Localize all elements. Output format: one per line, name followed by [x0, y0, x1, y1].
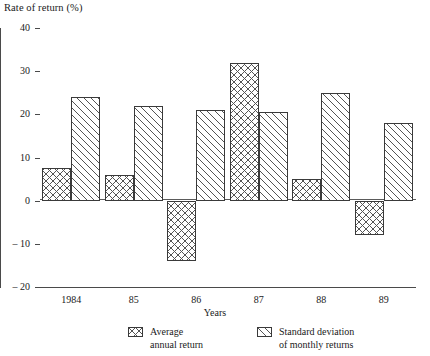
- x-axis-tick-label: 85: [104, 295, 164, 305]
- y-axis-tick-label: – 10: [0, 239, 30, 249]
- y-axis-tick-label: 20: [0, 109, 30, 119]
- y-axis-tick: [35, 287, 40, 288]
- chart-legend: Average annual return Standard deviation…: [0, 327, 430, 356]
- legend-swatch-average-icon: [128, 327, 143, 337]
- chart-title: Rate of return (%): [4, 2, 82, 13]
- x-axis-tick-label: 89: [354, 295, 414, 305]
- bar-88-average: [292, 179, 321, 201]
- x-axis-tick-label: 1984: [41, 295, 101, 305]
- y-axis-tick-label: 0: [0, 196, 30, 206]
- legend-label-stddev: Standard deviation of monthly returns: [279, 326, 354, 351]
- y-axis-tick-label: 10: [0, 153, 30, 163]
- bar-1984-stddev: [71, 97, 100, 201]
- x-axis-tick-label: 87: [229, 295, 289, 305]
- bar-86-stddev: [196, 110, 225, 201]
- bar-89-average: [355, 201, 384, 236]
- bar-1984-average: [42, 168, 71, 200]
- bar-86-average: [167, 201, 196, 261]
- legend-label-average: Average annual return: [150, 326, 203, 351]
- plot-area: [40, 28, 415, 287]
- bar-85-average: [105, 175, 134, 201]
- bar-87-average: [230, 63, 259, 201]
- legend-swatch-stddev-icon: [257, 327, 272, 337]
- x-axis-tick-label: 88: [291, 295, 351, 305]
- bar-85-stddev: [134, 106, 163, 201]
- bar-88-stddev: [321, 93, 350, 201]
- bar-89-stddev: [384, 123, 413, 201]
- chart-container: Rate of return (%) 403020100– 10– 20 198…: [0, 0, 430, 356]
- x-axis-tick-label: 86: [166, 295, 226, 305]
- legend-label-average-line2: annual return: [150, 339, 203, 352]
- y-axis-tick-label: 30: [0, 66, 30, 76]
- x-axis-title: Years: [0, 307, 430, 318]
- x-axis-line: [40, 287, 416, 288]
- legend-label-average-line1: Average: [150, 326, 183, 337]
- legend-label-stddev-line2: of monthly returns: [279, 339, 354, 352]
- y-axis-tick-label: 40: [0, 23, 30, 33]
- y-axis-tick-label: – 20: [0, 282, 30, 292]
- bar-87-stddev: [259, 112, 288, 200]
- legend-label-stddev-line1: Standard deviation: [279, 326, 354, 337]
